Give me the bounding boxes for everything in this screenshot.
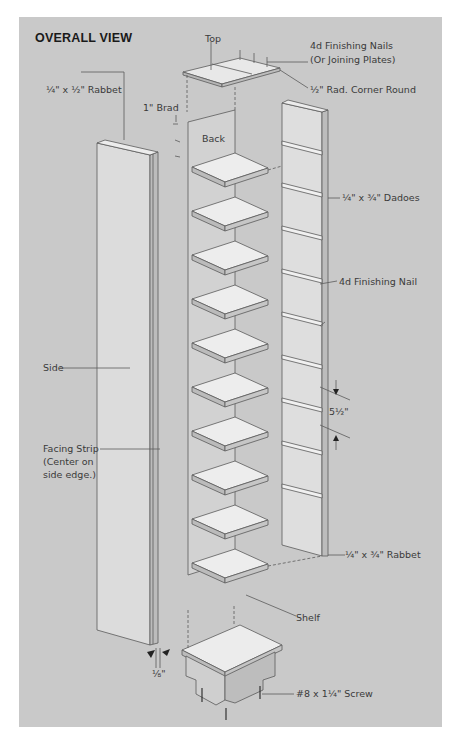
label-brad: 1" Brad — [143, 102, 179, 114]
bookcase-exploded-view — [0, 0, 453, 748]
label-joining-plates: (Or Joining Plates) — [310, 54, 396, 66]
label-spacing: 5½" — [329, 406, 349, 418]
label-shelf: Shelf — [296, 612, 320, 624]
label-dadoes: ¼" x ¾" Dadoes — [342, 192, 420, 204]
label-rabbet-bottom: ¼" x ¾" Rabbet — [345, 549, 421, 561]
label-facing-strip: Facing Strip — [43, 443, 99, 455]
label-facing-strip-note-1: (Center on — [43, 456, 94, 468]
label-back: Back — [202, 133, 225, 145]
label-offset: ⅛" — [152, 668, 166, 680]
label-facing-strip-note-2: side edge.) — [43, 469, 96, 481]
label-rabbet-top: ¼" x ½" Rabbet — [46, 84, 122, 96]
label-corner-round: ½" Rad. Corner Round — [310, 84, 416, 96]
side-panel — [97, 140, 158, 645]
base — [182, 625, 282, 705]
top-board — [183, 58, 280, 87]
label-side: Side — [43, 362, 64, 374]
label-top: Top — [205, 33, 221, 45]
label-finishing-nails: 4d Finishing Nails — [310, 40, 393, 52]
label-finishing-nail: 4d Finishing Nail — [339, 276, 417, 288]
label-screw: #8 x 1¼" Screw — [296, 688, 373, 700]
